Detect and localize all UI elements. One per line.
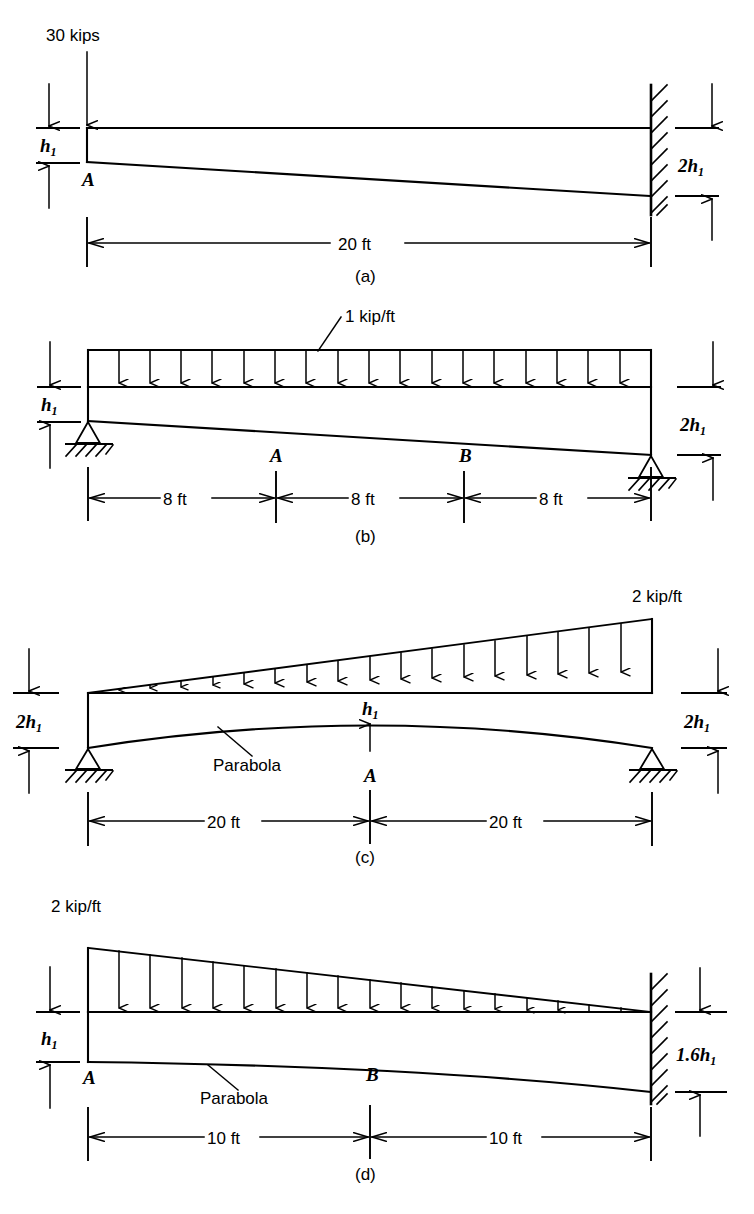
panel-b-load-leader <box>318 317 341 351</box>
panel-c-tag: (c) <box>355 848 375 867</box>
fixed-wall-hatching <box>651 85 667 215</box>
panel-d-tag: (d) <box>355 1165 376 1184</box>
left-pin-support <box>66 749 113 782</box>
panel-d-load-label: 2 kip/ft <box>51 897 101 916</box>
beam-bottom-edge <box>87 162 649 196</box>
dim-label-1: 10 ft <box>207 1129 240 1148</box>
right-pin-support <box>629 456 676 490</box>
left-depth-label: 2h1 <box>15 711 42 735</box>
right-pin-support <box>630 749 677 782</box>
left-pin-support <box>66 422 113 456</box>
panel-a-load-label: 30 kips <box>46 26 100 45</box>
triangular-load-slope <box>88 619 652 693</box>
parabola-note: Parabola <box>200 1089 269 1108</box>
point-label-A: A <box>269 445 283 466</box>
dim-label-1: 20 ft <box>207 813 240 832</box>
right-depth-label: 1.6h1 <box>676 1044 716 1068</box>
left-depth-label: h1 <box>41 1028 58 1052</box>
left-depth-label: h1 <box>40 135 57 159</box>
point-label-A: A <box>363 765 377 786</box>
right-depth-label: 2h1 <box>677 155 704 179</box>
point-label-B: B <box>365 1064 379 1085</box>
panel-b-load-label: 1 kip/ft <box>345 307 395 326</box>
panel-c: 2 kip/ft 2h1 <box>0 575 754 868</box>
dim-label-2: 10 ft <box>489 1129 522 1148</box>
right-depth-label: 2h1 <box>683 711 710 735</box>
mid-depth-label: h1 <box>362 698 379 722</box>
dim-label-2: 20 ft <box>489 813 522 832</box>
parabola-leader <box>208 1065 238 1090</box>
panel-c-load-label: 2 kip/ft <box>632 587 682 606</box>
span-dim-label: 20 ft <box>338 235 371 254</box>
panel-a-tag: (a) <box>355 267 376 286</box>
point-label-A: A <box>81 169 95 190</box>
dim-label-2: 8 ft <box>351 490 375 509</box>
point-label-A: A <box>82 1067 96 1088</box>
dim-label-1: 8 ft <box>163 490 187 509</box>
panel-a: 30 kips h1 A 2h <box>0 0 754 290</box>
left-depth-label: h1 <box>41 394 58 418</box>
figure-sheet: 30 kips h1 A 2h <box>0 0 754 1214</box>
panel-d: 2 kip/ft h1 <box>0 868 754 1214</box>
panel-b-tag: (b) <box>355 527 376 546</box>
beam-bottom-edge <box>88 421 651 455</box>
dim-label-3: 8 ft <box>539 490 563 509</box>
fixed-wall-hatching <box>651 974 667 1104</box>
right-depth-label: 2h1 <box>679 414 706 438</box>
uniform-load-arrows <box>88 350 651 385</box>
parabola-note: Parabola <box>213 756 282 775</box>
panel-b: 1 kip/ft h1 <box>0 290 754 575</box>
point-label-B: B <box>458 445 472 466</box>
